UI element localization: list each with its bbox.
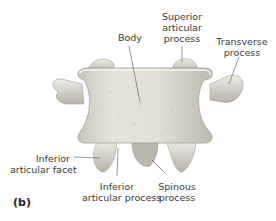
label-superior-articular-process: Superior articular process	[158, 11, 206, 44]
label-inferior-articular-process: Inferior articular process	[82, 181, 152, 203]
right-inferior-articular-process	[166, 140, 196, 172]
left-transverse-process	[53, 79, 84, 104]
label-body: Body	[113, 32, 147, 43]
label-transverse-process: Transverse process	[214, 36, 270, 58]
panel-label: (b)	[13, 196, 31, 209]
right-transverse-process	[210, 75, 243, 102]
vertebral-body	[78, 68, 212, 143]
label-spinous-process: Spinous process	[158, 181, 196, 203]
label-inferior-articular-facet: Inferior articular facet	[10, 153, 70, 175]
left-inferior-articular-process	[93, 140, 116, 172]
